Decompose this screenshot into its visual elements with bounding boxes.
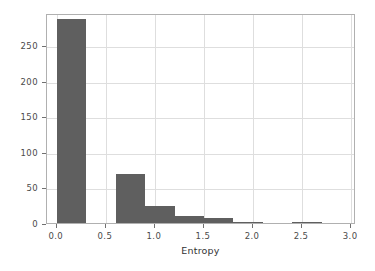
y-tick-mark [42, 188, 46, 189]
y-tick-label: 200 [0, 77, 38, 87]
y-tick-label: 100 [0, 148, 38, 158]
y-tick-label: 150 [0, 112, 38, 122]
x-tick-label: 2.5 [294, 231, 309, 241]
histogram-bar [116, 174, 145, 223]
y-tick-label: 250 [0, 41, 38, 51]
y-tick-label: 0 [0, 219, 38, 229]
y-tick-mark [42, 46, 46, 47]
x-tick-mark [301, 224, 302, 228]
x-tick-label: 1.5 [196, 231, 211, 241]
y-tick-mark [42, 117, 46, 118]
histogram-bar [233, 222, 262, 223]
x-tick-label: 0.0 [48, 231, 63, 241]
bars-container [47, 15, 354, 223]
plot-area [46, 14, 355, 224]
x-tick-mark [350, 224, 351, 228]
x-tick-mark [203, 224, 204, 228]
histogram-bar [204, 218, 233, 223]
y-tick-mark [42, 153, 46, 154]
histogram-bar [292, 222, 321, 223]
y-tick-label: 50 [0, 183, 38, 193]
x-tick-label: 2.0 [245, 231, 260, 241]
histogram-bar [145, 206, 174, 223]
x-tick-label: 3.0 [343, 231, 358, 241]
histogram-bar [57, 19, 86, 223]
x-axis-label: Entropy [46, 245, 355, 256]
x-tick-mark [252, 224, 253, 228]
x-tick-mark [56, 224, 57, 228]
histogram-bar [175, 216, 204, 223]
histogram-figure: 0.00.51.01.52.02.53.0 050100150200250 En… [0, 0, 375, 271]
x-tick-mark [154, 224, 155, 228]
y-tick-mark [42, 82, 46, 83]
x-tick-mark [105, 224, 106, 228]
y-tick-mark [42, 224, 46, 225]
x-tick-label: 0.5 [97, 231, 112, 241]
x-tick-label: 1.0 [147, 231, 162, 241]
